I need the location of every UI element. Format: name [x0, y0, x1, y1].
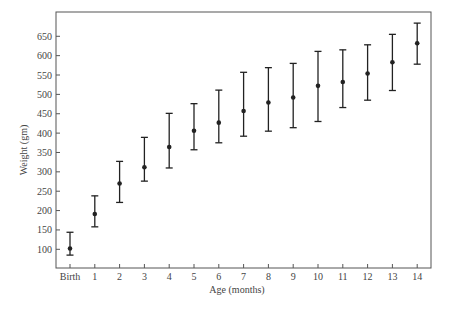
x-tick-label: 1 — [92, 271, 97, 282]
data-point-group — [166, 113, 173, 168]
data-point-group — [265, 68, 272, 132]
error-bar-chart: 100150200250300350400450500550600650 Bir… — [0, 0, 450, 310]
data-series — [67, 23, 421, 255]
data-point-group — [290, 63, 297, 127]
data-point-group — [91, 196, 98, 227]
x-tick-label: Birth — [60, 271, 81, 282]
x-tick-label: 3 — [142, 271, 147, 282]
data-point-group — [116, 161, 123, 202]
x-tick-label: 2 — [117, 271, 122, 282]
y-axis: 100150200250300350400450500550600650 — [37, 31, 60, 255]
x-tick-label: 7 — [241, 271, 246, 282]
x-tick-label: 10 — [313, 271, 323, 282]
x-tick-label: 8 — [266, 271, 271, 282]
mean-marker — [142, 165, 147, 170]
y-tick-label: 400 — [37, 128, 52, 139]
mean-marker — [291, 95, 296, 100]
mean-marker — [390, 60, 395, 65]
mean-marker — [316, 84, 321, 89]
y-tick-label: 500 — [37, 89, 52, 100]
data-point-group — [364, 45, 371, 100]
data-point-group — [414, 23, 421, 64]
mean-marker — [117, 181, 122, 186]
mean-marker — [266, 100, 271, 105]
mean-marker — [217, 120, 222, 125]
x-tick-label: 11 — [338, 271, 348, 282]
y-axis-title: Weight (gm) — [18, 125, 30, 176]
x-axis-title: Age (months) — [209, 284, 264, 296]
mean-marker — [415, 41, 420, 46]
data-point-group — [215, 90, 222, 143]
y-tick-label: 250 — [37, 186, 52, 197]
data-point-group — [141, 137, 148, 181]
data-point-group — [240, 72, 247, 136]
data-point-group — [315, 51, 322, 121]
mean-marker — [167, 145, 172, 150]
x-tick-label: 13 — [387, 271, 397, 282]
x-tick-label: 4 — [167, 271, 172, 282]
x-tick-label: 12 — [363, 271, 373, 282]
mean-marker — [192, 128, 197, 133]
data-point-group — [389, 34, 396, 90]
data-point-group — [67, 232, 74, 255]
x-tick-label: 14 — [412, 271, 422, 282]
mean-marker — [241, 109, 246, 114]
x-tick-label: 5 — [192, 271, 197, 282]
plot-border — [56, 12, 431, 268]
y-tick-label: 100 — [37, 244, 52, 255]
y-tick-label: 300 — [37, 166, 52, 177]
data-point-group — [191, 104, 198, 150]
y-tick-label: 450 — [37, 108, 52, 119]
mean-marker — [365, 71, 370, 76]
y-tick-label: 200 — [37, 205, 52, 216]
y-tick-label: 350 — [37, 147, 52, 158]
y-tick-label: 550 — [37, 70, 52, 81]
x-tick-label: 9 — [291, 271, 296, 282]
y-tick-label: 600 — [37, 50, 52, 61]
data-point-group — [339, 50, 346, 108]
mean-marker — [93, 212, 98, 217]
x-tick-label: 6 — [216, 271, 221, 282]
mean-marker — [341, 80, 346, 85]
x-axis: Birth1234567891011121314 — [60, 264, 422, 282]
y-tick-label: 650 — [37, 31, 52, 42]
plot-frame — [56, 12, 431, 268]
y-tick-label: 150 — [37, 224, 52, 235]
mean-marker — [68, 246, 73, 251]
